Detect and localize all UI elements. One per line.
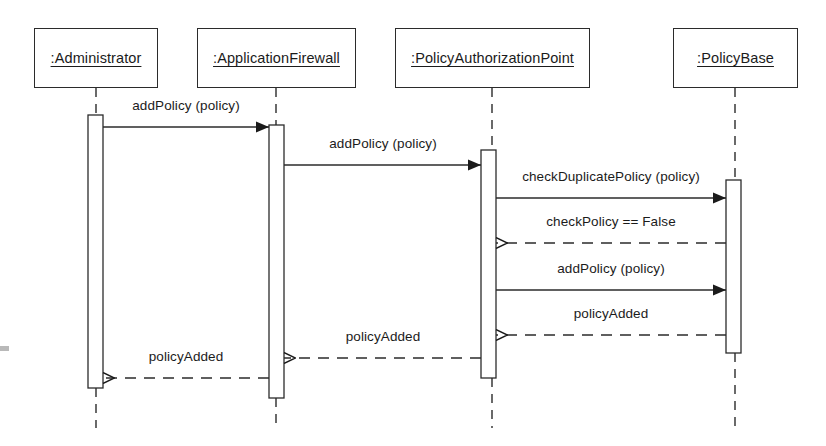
lifeline-label-administrator: :Administrator bbox=[51, 50, 142, 66]
lifeline-header-administrator: :Administrator bbox=[34, 28, 158, 88]
lifeline-label-policy-authorization-point: :PolicyAuthorizationPoint bbox=[411, 50, 574, 66]
lifeline-header-policy-base: :PolicyBase bbox=[673, 28, 798, 88]
lifeline-label-application-firewall: :ApplicationFirewall bbox=[213, 50, 340, 66]
message-label-msg-1: addPolicy (policy) bbox=[132, 98, 240, 113]
activation-bar-policy-base bbox=[726, 180, 741, 353]
activation-bar-policy-authorization-point bbox=[481, 150, 496, 378]
lifeline-header-policy-authorization-point: :PolicyAuthorizationPoint bbox=[395, 28, 590, 88]
message-label-msg-2: addPolicy (policy) bbox=[329, 136, 437, 151]
activation-bar-administrator bbox=[88, 115, 103, 388]
message-label-msg-3: checkDuplicatePolicy (policy) bbox=[522, 169, 700, 184]
message-label-msg-6: policyAdded bbox=[574, 306, 649, 321]
message-label-msg-7: policyAdded bbox=[346, 329, 421, 344]
message-label-msg-4: checkPolicy == False bbox=[546, 214, 676, 229]
activation-bar-application-firewall bbox=[269, 125, 284, 398]
message-label-msg-8: policyAdded bbox=[149, 349, 224, 364]
message-label-msg-5: addPolicy (policy) bbox=[557, 261, 665, 276]
uml-sequence-diagram: :Administrator:ApplicationFirewall:Polic… bbox=[0, 0, 826, 446]
lifeline-label-policy-base: :PolicyBase bbox=[697, 50, 774, 66]
lifeline-header-application-firewall: :ApplicationFirewall bbox=[197, 28, 356, 88]
